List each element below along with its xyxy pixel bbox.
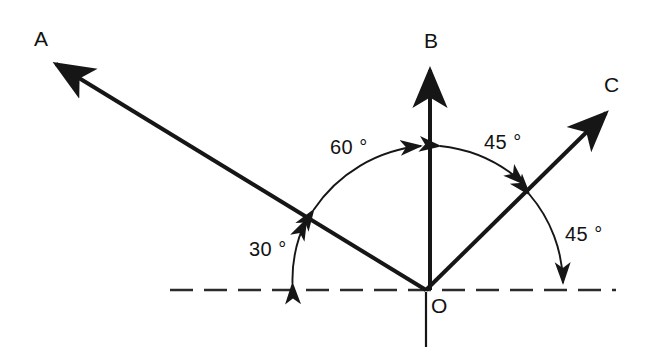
label-point-c: C xyxy=(604,74,619,95)
arc-angle-45-bottom xyxy=(530,195,564,284)
vector-angle-diagram xyxy=(0,0,655,352)
label-angle-45-top: 45 ° xyxy=(484,132,522,152)
label-point-a: A xyxy=(34,28,48,49)
label-angle-30: 30 ° xyxy=(249,239,287,259)
arc-angle-30 xyxy=(292,220,306,284)
label-angle-60: 60 ° xyxy=(330,137,368,157)
label-angle-45-bottom: 45 ° xyxy=(565,224,603,244)
diagram-canvas: A B C O 30 ° 60 ° 45 ° 45 ° xyxy=(0,0,655,352)
ray-oa xyxy=(56,64,426,290)
label-point-b: B xyxy=(424,30,438,51)
label-origin-o: O xyxy=(431,295,448,316)
